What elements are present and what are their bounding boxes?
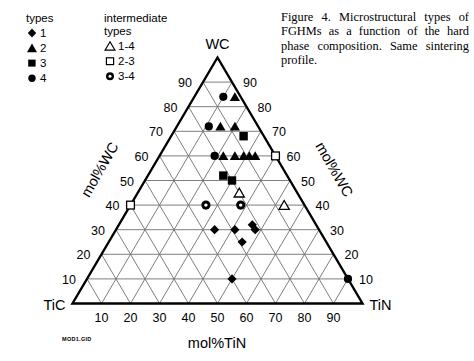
figure-container: types 1 2: [0, 0, 474, 361]
tick-left-10: 10: [62, 273, 76, 287]
axis-title-right: mol%WC: [312, 139, 356, 199]
tick-left-20: 20: [77, 248, 91, 262]
grid-line-tic: [116, 230, 160, 304]
grid-line-tin: [276, 230, 320, 304]
data-point-1-4: [238, 237, 247, 246]
vertex-label-tin: TiN: [370, 297, 392, 313]
grid-line-tin: [102, 82, 233, 303]
axis-title-bottom: mol%TiN: [188, 335, 246, 351]
tick-left-30: 30: [91, 224, 105, 238]
vertex-label-tic: TiC: [43, 297, 65, 313]
tick-left-70: 70: [149, 125, 163, 139]
data-point-3-2: [228, 176, 236, 184]
tick-left-50: 50: [120, 175, 134, 189]
tick-bottom-40: 40: [182, 311, 196, 325]
data-point-1-0: [210, 225, 219, 234]
tick-right-50: 50: [301, 175, 315, 189]
data-point-3-1: [219, 171, 227, 179]
tick-bottom-50: 50: [211, 311, 225, 325]
tick-bottom-30: 30: [153, 311, 167, 325]
data-point-1-1: [230, 225, 239, 234]
data-point-1-4-0: [234, 188, 244, 197]
tick-bottom-60: 60: [240, 311, 254, 325]
tick-bottom-90: 90: [327, 311, 341, 325]
data-point-4-3: [344, 275, 352, 283]
data-point-1-5: [227, 274, 236, 283]
grid-line-tin: [218, 181, 291, 304]
tick-right-30: 30: [330, 224, 344, 238]
tick-right-80: 80: [258, 101, 272, 115]
data-point-3-4-0: [201, 201, 210, 210]
file-tag: MOD1.GID: [62, 336, 92, 342]
grid-line-tic: [203, 82, 334, 303]
grid-line-tin: [334, 279, 349, 304]
file-tag-label: MOD1.GID: [62, 336, 92, 342]
ternary-diagram: 1020304050607080901020304050607080901020…: [0, 0, 474, 361]
grid-line-tic: [145, 181, 218, 304]
data-point-2-3-0: [272, 152, 280, 160]
vertex-label-wc: WC: [205, 36, 229, 52]
data-point-2-3-1: [127, 201, 135, 209]
tick-bottom-10: 10: [95, 311, 109, 325]
data-point-2-5: [215, 122, 225, 131]
tick-right-70: 70: [272, 125, 286, 139]
data-point-4-2: [211, 152, 219, 160]
data-point-3-0: [239, 132, 247, 140]
data-points: [127, 92, 353, 283]
tick-left-80: 80: [164, 101, 178, 115]
tick-bottom-80: 80: [298, 311, 312, 325]
grid-line-tic: [87, 279, 102, 304]
data-point-3-4-1: [236, 201, 245, 210]
axis-tick-labels: 1020304050607080901020304050607080901020…: [62, 76, 373, 324]
tick-right-90: 90: [243, 76, 257, 90]
tick-left-40: 40: [106, 199, 120, 213]
data-point-2-6: [230, 122, 240, 131]
axis-title-left: mol%WC: [78, 139, 122, 199]
grid-lines: [87, 82, 348, 303]
series-2: [215, 92, 260, 160]
tick-right-60: 60: [287, 150, 301, 164]
tick-right-40: 40: [316, 199, 330, 213]
data-point-4-1: [205, 122, 213, 130]
data-point-4-0: [219, 93, 227, 101]
tick-bottom-20: 20: [124, 311, 138, 325]
tick-right-10: 10: [359, 273, 373, 287]
tick-right-20: 20: [345, 248, 359, 262]
tick-left-60: 60: [135, 150, 149, 164]
tick-bottom-70: 70: [269, 311, 283, 325]
tick-left-90: 90: [178, 76, 192, 90]
